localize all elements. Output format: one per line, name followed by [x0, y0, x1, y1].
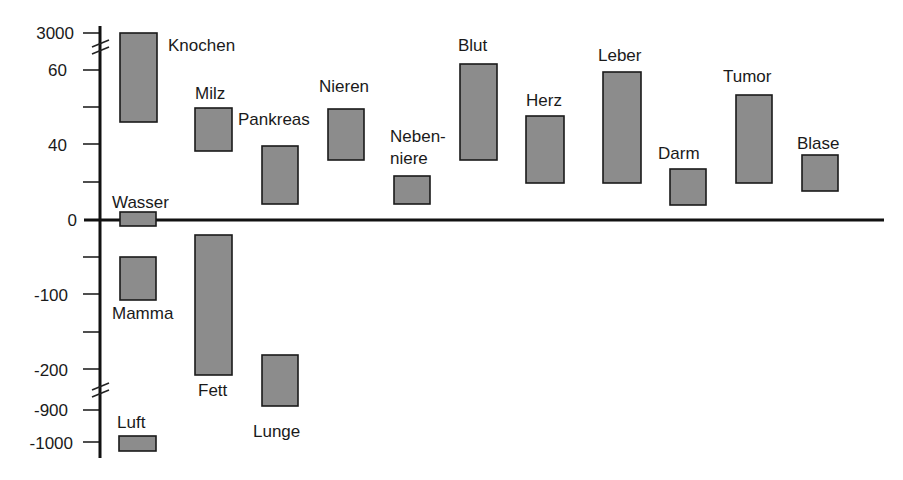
label-herz: Herz [526, 91, 562, 110]
bar-blase [802, 155, 838, 191]
label-knochen: Knochen [168, 36, 235, 55]
bar-tumor [736, 95, 772, 183]
bar-lunge [262, 355, 298, 406]
label-luft: Luft [117, 413, 146, 432]
bar-darm [670, 169, 706, 205]
bar-herz [526, 116, 564, 183]
label-fett: Fett [198, 381, 228, 400]
label-nieren: Nieren [319, 77, 369, 96]
bar-milz [195, 108, 232, 151]
y-tick-label-60: 60 [48, 61, 67, 80]
label-darm: Darm [658, 144, 700, 163]
bar-nebenniere [394, 176, 430, 204]
bar-leber [603, 72, 641, 183]
label-mamma: Mamma [112, 304, 174, 323]
label-tumor: Tumor [723, 67, 772, 86]
bar-nieren [328, 109, 364, 160]
y-axis-ticks [83, 33, 100, 442]
y-tick-label-minus-100: -100 [34, 286, 68, 305]
label-nebenniere: Neben- [390, 127, 446, 146]
y-tick-label-minus-900: -900 [34, 401, 68, 420]
bar-luft [119, 436, 156, 451]
y-tick-label-0: 0 [68, 211, 77, 230]
label-leber: Leber [598, 46, 642, 65]
label-lunge: Lunge [253, 422, 300, 441]
y-tick-label-minus-200: -200 [34, 361, 68, 380]
y-tick-label-minus-1000: -1000 [30, 434, 73, 453]
bar-pankreas [262, 146, 298, 204]
bar-blut [460, 64, 497, 160]
label-blase: Blase [797, 134, 840, 153]
ct-value-range-chart: 3000 60 40 0 -100 -200 -900 -1000 Knoche… [0, 0, 903, 480]
y-tick-label-3000: 3000 [36, 24, 74, 43]
y-axis-tick-labels: 3000 60 40 0 -100 -200 -900 -1000 [30, 24, 77, 453]
bar-knochen [120, 33, 157, 122]
label-pankreas: Pankreas [238, 110, 310, 129]
label-milz: Milz [195, 84, 225, 103]
label-blut: Blut [458, 36, 488, 55]
bar-mamma [120, 257, 156, 300]
bar-fett [195, 235, 232, 375]
bar-wasser [120, 212, 156, 226]
y-tick-label-40: 40 [48, 136, 67, 155]
label-wasser: Wasser [112, 193, 169, 212]
label-nebenniere-line2: niere [390, 149, 428, 168]
